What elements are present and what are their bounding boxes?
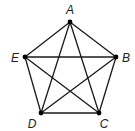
vertex-label-C: C xyxy=(100,117,109,131)
vertex-D xyxy=(39,111,44,116)
edge-CE xyxy=(25,57,99,113)
edge-BD xyxy=(41,57,116,113)
vertex-label-D: D xyxy=(28,117,37,131)
edge-AD xyxy=(41,22,70,113)
vertex-E xyxy=(23,55,28,60)
edge-AB xyxy=(70,22,116,57)
graph-canvas: ABCDE xyxy=(0,0,135,131)
edge-DE xyxy=(25,57,41,113)
vertex-label-A: A xyxy=(65,3,74,17)
vertex-C xyxy=(97,111,102,116)
vertex-label-E: E xyxy=(11,51,20,65)
edges xyxy=(25,22,116,113)
edge-AE xyxy=(25,22,70,57)
vertex-B xyxy=(114,55,119,60)
vertex-A xyxy=(68,20,73,25)
edge-AC xyxy=(70,22,99,113)
graph-diagram: ABCDE xyxy=(0,0,135,131)
vertex-label-B: B xyxy=(122,51,130,65)
edge-BC xyxy=(99,57,116,113)
